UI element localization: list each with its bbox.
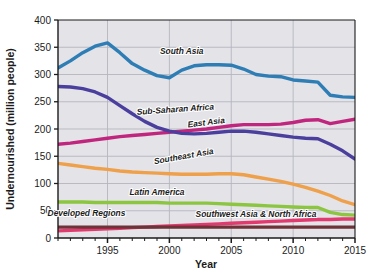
series-label-latin-america: Latin America <box>129 187 184 197</box>
x-axis-tick-labels: 19952000200520102015 <box>96 245 366 256</box>
x-axis-ticks <box>58 238 355 243</box>
y-tick-label: 0 <box>45 233 51 244</box>
y-tick-label: 150 <box>34 151 51 162</box>
series-label-southwest-asia-north-africa: Southwest Asia & North Africa <box>196 209 317 219</box>
y-axis-title: Undernourished (million people) <box>4 48 16 210</box>
y-tick-label: 400 <box>34 15 51 26</box>
x-tick-label: 2000 <box>158 245 181 256</box>
y-tick-label: 300 <box>34 69 51 80</box>
x-axis-title: Year <box>195 258 217 270</box>
series-label-developed-regions: Developed Regions <box>48 208 126 218</box>
x-tick-label: 1995 <box>96 245 119 256</box>
y-tick-label: 350 <box>34 42 51 53</box>
y-tick-label: 200 <box>34 124 51 135</box>
y-tick-label: 250 <box>34 96 51 107</box>
x-tick-label: 2010 <box>282 245 305 256</box>
x-tick-label: 2005 <box>220 245 243 256</box>
chart-canvas: 400350300250200150100500 199520002005201… <box>0 0 373 275</box>
x-tick-label: 2015 <box>344 245 367 256</box>
undernourishment-line-chart: 400350300250200150100500 199520002005201… <box>0 0 373 275</box>
series-label-south-asia: South Asia <box>160 46 204 56</box>
y-tick-label: 100 <box>34 178 51 189</box>
